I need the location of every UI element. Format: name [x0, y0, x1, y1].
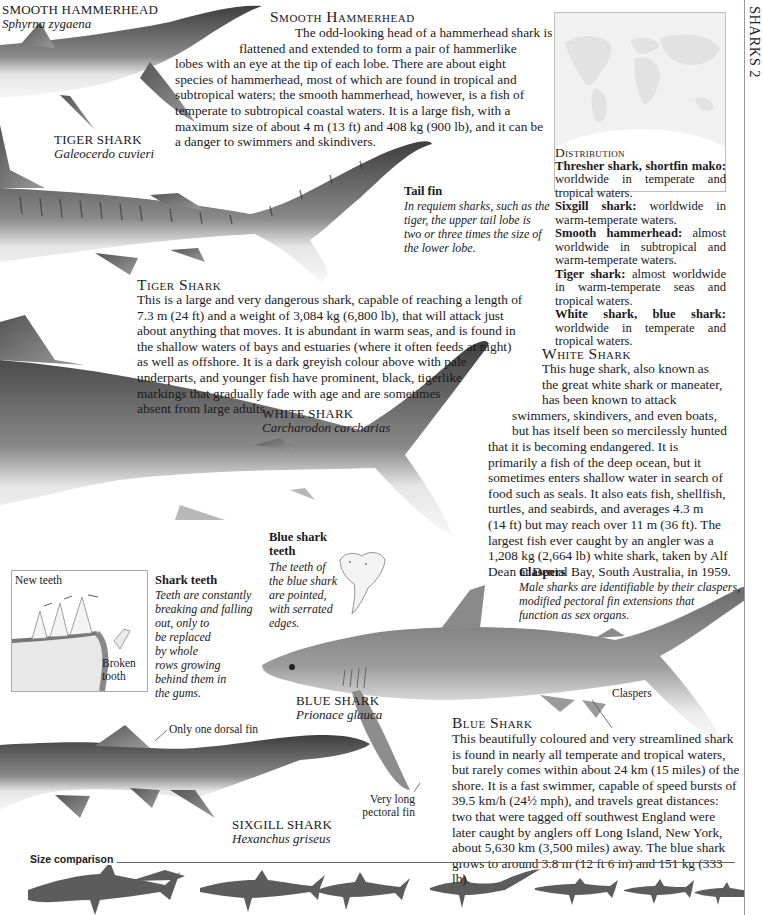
tail-fin-title: Tail fin [404, 184, 442, 198]
blue-shark-latin: Prionace glauca [296, 707, 382, 722]
shark-teeth-diagram: New teeth Broken tooth [11, 570, 148, 692]
white-shark-label: WHITE SHARK [262, 406, 353, 421]
distribution-entry: Thresher shark, shortfin mako: worldwide… [555, 160, 726, 201]
blue-shark-heading: Blue Shark [452, 714, 532, 731]
sixgill-shark-latin: Hexanchus griseus [232, 831, 331, 846]
distribution-text: Distribution Thresher shark, shortfin ma… [555, 146, 726, 349]
new-teeth-callout: New teeth [15, 574, 62, 587]
smooth-hammerhead-latin: Sphyrna zygaena [2, 16, 91, 31]
blue-shark-text: This beautifully coloured and very strea… [452, 731, 744, 887]
size-comparison-rule [30, 862, 735, 863]
distribution-entry: Sixgill shark: worldwide in warm-tempera… [555, 200, 726, 227]
tail-fin-caption: In requiem sharks, such as the tiger, th… [404, 199, 554, 255]
pectoral-fin-callout: Very long pectoral fin [355, 793, 415, 819]
tiger-shark-label: TIGER SHARK [54, 132, 142, 147]
shark-teeth-caption: Teeth are constantly breaking and fallin… [155, 588, 265, 700]
smooth-hammerhead-label: SMOOTH HAMMERHEAD [2, 2, 158, 17]
distribution-entry: Tiger shark: almost worldwide in warm-te… [555, 268, 726, 309]
size-comparison-label: Size comparison [30, 853, 117, 865]
shark-teeth-title: Shark teeth [155, 573, 217, 587]
blue-shark-label: BLUE SHARK [296, 693, 379, 708]
claspers-title: Claspers [519, 565, 566, 579]
distribution-heading: Distribution [555, 146, 726, 160]
sixgill-shark-label: SIXGILL SHARK [232, 817, 332, 832]
sixgill-shark-illustration [0, 725, 370, 818]
tiger-shark-text: This is a large and very dangerous shark… [137, 292, 537, 417]
tiger-shark-heading: Tiger Shark [137, 276, 221, 293]
world-map-icon [555, 13, 725, 148]
white-shark-heading: White Shark [542, 345, 631, 362]
blue-shark-teeth-caption: The teeth of the blue shark are pointed,… [269, 560, 339, 630]
blue-shark-tooth-illustration [340, 553, 385, 614]
blue-shark-teeth-title: Blue shark teeth [269, 530, 327, 558]
dorsal-fin-callout: Only one dorsal fin [169, 723, 258, 736]
distribution-entry: Smooth hammerhead: almost worldwide in s… [555, 227, 726, 268]
smooth-hammerhead-heading: Smooth Hammerhead [270, 8, 415, 25]
page-edge-rule [744, 0, 745, 915]
smooth-hammerhead-text: The odd-looking head of a hammerhead sha… [175, 25, 555, 150]
tiger-shark-latin: Galeocerdo cuvieri [54, 146, 154, 161]
broken-tooth-callout: Broken tooth [102, 657, 136, 683]
world-map [555, 13, 725, 148]
white-shark-text: This huge shark, also known as the great… [488, 361, 743, 579]
claspers-caption: Male sharks are identifiable by their cl… [519, 580, 749, 622]
claspers-callout: Claspers [612, 687, 652, 700]
running-head: SHARKS 2 [746, 6, 763, 78]
white-shark-latin: Carcharodon carcharias [262, 420, 390, 435]
distribution-entry: White shark, blue shark: worldwide in te… [555, 308, 726, 349]
